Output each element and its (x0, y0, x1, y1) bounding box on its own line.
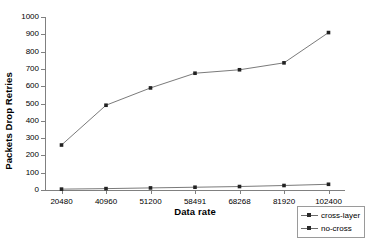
y-tick-label: 800 (5, 46, 39, 57)
y-tick-label: 400 (5, 115, 39, 126)
y-tick (41, 190, 45, 191)
legend-item-no-cross[interactable]: no-cross (301, 222, 361, 235)
series-line (62, 33, 329, 145)
data-point-marker (104, 103, 108, 107)
legend-marker-icon (301, 224, 318, 233)
y-tick-label: 600 (5, 80, 39, 91)
legend-label: cross-layer (321, 211, 360, 221)
legend: cross-layer no-cross (297, 206, 365, 238)
data-point-marker (327, 182, 331, 186)
data-point-marker (60, 187, 64, 191)
data-point-marker (282, 184, 286, 188)
legend-item-cross-layer[interactable]: cross-layer (301, 209, 361, 222)
x-tick (195, 190, 196, 194)
data-point-marker (193, 185, 197, 189)
x-tick (106, 190, 107, 194)
data-point-marker (60, 143, 64, 147)
data-point-marker (104, 187, 108, 191)
y-tick-label: 200 (5, 149, 39, 160)
data-point-marker (193, 71, 197, 75)
x-tick (151, 190, 152, 194)
y-tick-label: 0 (5, 184, 39, 195)
data-point-marker (149, 186, 153, 190)
y-tick-label: 500 (5, 98, 39, 109)
y-tick-label: 300 (5, 132, 39, 143)
x-tick (329, 190, 330, 194)
legend-label: no-cross (321, 224, 352, 234)
y-tick-label: 100 (5, 167, 39, 178)
legend-marker-icon (301, 211, 318, 220)
data-point-marker (282, 61, 286, 65)
y-tick-label: 900 (5, 28, 39, 39)
data-point-marker (327, 31, 331, 35)
x-tick (240, 190, 241, 194)
series-plot (45, 17, 345, 190)
y-tick-label: 1000 (5, 11, 39, 22)
chart-container: Packets Drop Retries 0100200300400500600… (0, 0, 369, 242)
y-tick-label: 700 (5, 63, 39, 74)
data-point-marker (149, 86, 153, 90)
data-point-marker (238, 185, 242, 189)
plot-area: 01002003004005006007008009001000 2048040… (45, 17, 345, 190)
data-point-marker (238, 68, 242, 72)
x-tick (284, 190, 285, 194)
